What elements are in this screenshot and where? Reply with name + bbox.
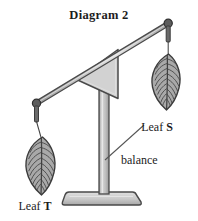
balance-post xyxy=(99,88,109,194)
leaf-s-label: Leaf S xyxy=(141,120,173,134)
leaf-t-label: Leaf T xyxy=(19,199,52,213)
left-hanger-string xyxy=(37,122,42,140)
left-hanger-stub xyxy=(35,106,39,122)
diagram-canvas: Diagram 2 xyxy=(0,0,198,221)
right-hanger xyxy=(164,19,172,56)
page-title: Diagram 2 xyxy=(69,8,128,22)
leaf-s-shape xyxy=(152,54,180,110)
leaf-t-label-mark: T xyxy=(43,199,51,213)
left-hanger xyxy=(32,99,41,139)
diagram-2-illustration: Diagram 2 xyxy=(0,0,198,221)
leaf-s-label-prefix: Leaf xyxy=(141,120,166,134)
leaf-t-label-prefix: Leaf xyxy=(19,199,44,213)
leaf-t-shape xyxy=(26,137,55,195)
right-hanger-stub xyxy=(166,26,170,42)
leaf-s-label-mark: S xyxy=(166,120,173,134)
balance-label: balance xyxy=(121,153,158,167)
